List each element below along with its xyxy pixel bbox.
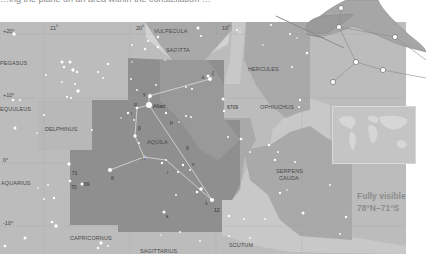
star xyxy=(165,159,167,161)
star xyxy=(107,63,109,65)
star xyxy=(107,245,109,247)
star xyxy=(199,240,201,242)
star xyxy=(294,161,296,163)
star xyxy=(102,77,104,79)
star xyxy=(223,110,225,112)
star-label-12: 12 xyxy=(214,207,220,213)
star xyxy=(345,216,347,218)
star xyxy=(36,132,38,134)
star xyxy=(108,168,112,172)
star xyxy=(43,198,45,200)
star xyxy=(51,221,54,224)
star xyxy=(91,129,93,131)
star xyxy=(67,162,70,165)
star xyxy=(210,198,214,202)
star xyxy=(339,233,341,235)
star xyxy=(277,151,279,153)
star xyxy=(286,189,288,191)
star xyxy=(264,218,266,220)
ra-label-21h: 21h xyxy=(50,24,58,31)
star-label-lambda: λ xyxy=(205,200,208,206)
star xyxy=(208,77,212,81)
star xyxy=(97,71,99,73)
constellation-serpens: SERPENS xyxy=(276,168,303,174)
constellation-hercules: HERCULES xyxy=(248,66,279,72)
star xyxy=(191,88,193,90)
star xyxy=(133,119,135,121)
star-label-altair: Altair xyxy=(153,103,166,109)
star xyxy=(289,33,291,35)
world-map-icon xyxy=(333,107,415,163)
star-label-70: 70 xyxy=(71,184,77,190)
star xyxy=(262,44,264,46)
star xyxy=(249,237,251,239)
star xyxy=(299,99,301,101)
star xyxy=(182,164,184,166)
star xyxy=(155,84,157,86)
constellation-delphinus: DELPHINUS xyxy=(45,126,77,132)
star xyxy=(144,48,146,50)
star-label-zeta: ζ xyxy=(212,70,214,76)
star xyxy=(157,46,160,49)
star xyxy=(74,83,76,85)
star xyxy=(175,194,177,196)
star xyxy=(160,234,162,236)
star xyxy=(63,66,65,68)
ra-label-20h: 20h xyxy=(136,24,144,31)
constellation-cauda: CAUDA xyxy=(279,175,299,181)
star xyxy=(157,36,159,38)
star-label-beta: β xyxy=(138,125,141,131)
star xyxy=(133,134,136,137)
star xyxy=(189,169,191,171)
star xyxy=(200,35,202,37)
star xyxy=(61,81,63,83)
star xyxy=(329,184,331,186)
dec-label-plus20: +20° xyxy=(3,28,15,34)
star xyxy=(190,116,192,118)
star xyxy=(222,98,225,101)
star-label-eta: η xyxy=(142,154,145,160)
star xyxy=(69,180,72,183)
constellation-scutum: SCUTUM xyxy=(229,242,253,248)
star xyxy=(136,89,138,91)
star-label-theta: θ xyxy=(111,175,114,181)
star xyxy=(243,218,245,220)
dec-label-minus10: -10° xyxy=(3,220,13,226)
star xyxy=(185,115,187,117)
star xyxy=(240,138,243,141)
star xyxy=(270,24,272,26)
star xyxy=(178,121,180,123)
star xyxy=(199,187,203,191)
star xyxy=(138,142,140,144)
visibility-note: Fully visible 78°N–71°S xyxy=(357,190,406,214)
star xyxy=(228,215,231,218)
star-label-delta: δ xyxy=(186,145,189,151)
star-label-iota: ι xyxy=(167,169,168,175)
region-delphinus xyxy=(38,100,92,150)
constellation-ophiuchus: OPHIUCHUS xyxy=(260,104,294,110)
star xyxy=(120,117,122,119)
constellation-aquila: AQUILA xyxy=(147,139,168,145)
star xyxy=(45,74,47,76)
star xyxy=(228,235,230,237)
star xyxy=(207,75,210,78)
star-label-gamma: γ xyxy=(143,91,146,97)
star xyxy=(274,159,276,161)
star xyxy=(76,71,78,73)
star xyxy=(239,31,241,33)
star xyxy=(61,61,64,64)
world-map-inset xyxy=(332,106,416,164)
constellation-aquarius: AQUARIUS xyxy=(1,180,31,186)
star xyxy=(14,127,17,130)
star xyxy=(69,61,72,64)
star xyxy=(302,212,305,215)
star xyxy=(136,107,139,110)
star-label-71: 71 xyxy=(72,170,78,176)
star-label-iota-upper: ι xyxy=(131,110,132,116)
star xyxy=(131,61,133,63)
star-label-alpha: α xyxy=(134,101,137,107)
star xyxy=(165,112,167,114)
constellation-sagitta: SAGITTA xyxy=(166,47,190,53)
constellation-capricornus: CAPRICORNUS xyxy=(70,235,112,241)
star xyxy=(177,171,179,173)
